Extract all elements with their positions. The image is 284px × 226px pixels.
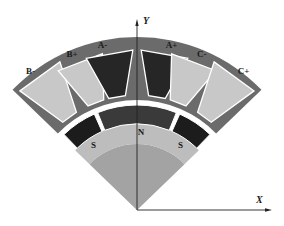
x-axis-label: X <box>255 194 263 205</box>
y-axis-label: Y <box>143 15 150 26</box>
magnet-pole-label-0: S <box>91 140 96 150</box>
motor-sector-diagram: Y X B-B+A-A+C-C+SNS <box>0 0 284 226</box>
magnet-pole-label-1: N <box>138 127 145 137</box>
magnet-pole-label-2: S <box>178 140 183 150</box>
coil-label-bminus: B- <box>26 66 35 76</box>
y-axis-arrow-icon <box>135 19 138 26</box>
coil-label-cplus: C+ <box>238 66 250 76</box>
coil-label-aminus: A- <box>98 40 108 50</box>
coil-label-cminus: C- <box>197 49 207 59</box>
coil-label-bplus: B+ <box>67 49 78 59</box>
x-axis-arrow-icon <box>265 208 272 211</box>
coil-label-aplus: A+ <box>166 40 178 50</box>
